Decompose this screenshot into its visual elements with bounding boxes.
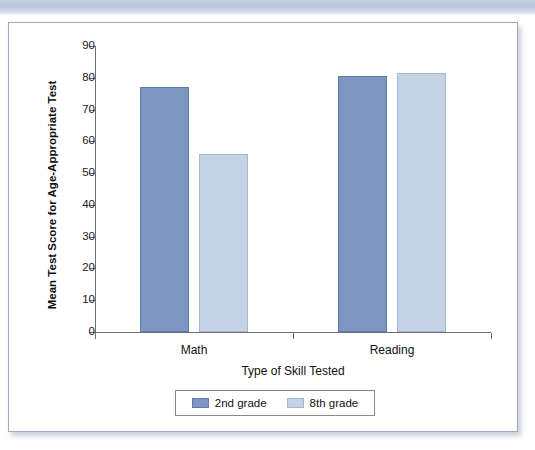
x-axis-title: Type of Skill Tested (95, 364, 491, 378)
y-axis-tick-label: 10 (69, 294, 95, 306)
bar-reading-8th-grade (397, 73, 446, 332)
y-axis-tick-label-wrap: 70 (55, 104, 95, 116)
top-decorative-band (0, 0, 535, 12)
y-axis-tick-label: 50 (69, 167, 95, 179)
x-axis-tick (95, 333, 96, 339)
chart-legend: 2nd grade8th grade (175, 390, 375, 416)
bar-reading-2nd-grade (338, 76, 387, 332)
x-axis-category-label: Math (181, 343, 208, 357)
y-axis-tick-label: 80 (69, 72, 95, 84)
bar-math-8th-grade (199, 154, 248, 332)
x-axis-tick (293, 333, 294, 339)
legend-swatch-icon (287, 398, 304, 408)
figure-card: 0102030405060708090 MathReading Mean Tes… (8, 22, 518, 432)
y-axis-tick-label: 90 (69, 40, 95, 52)
y-axis-tick-label: 0 (69, 326, 95, 338)
y-axis-line (95, 46, 96, 333)
y-axis-tick-label: 60 (69, 135, 95, 147)
top-band-shadow (0, 12, 535, 16)
y-axis-tick-label-wrap: 50 (55, 167, 95, 179)
x-axis-category-label: Reading (370, 343, 415, 357)
legend-label: 2nd grade (215, 397, 267, 409)
x-axis-tick (491, 333, 492, 339)
y-axis-title: Mean Test Score for Age-Appropriate Test (46, 55, 58, 335)
y-axis-tick-label-wrap: 60 (55, 135, 95, 147)
y-axis-tick-label-wrap: 0 (55, 326, 95, 338)
y-axis-tick-label-wrap: 10 (55, 294, 95, 306)
y-axis-tick-label: 30 (69, 231, 95, 243)
y-axis-tick-label-wrap: 30 (55, 231, 95, 243)
legend-entry-8th-grade: 8th grade (287, 397, 359, 409)
bar-chart: 0102030405060708090 MathReading Mean Tes… (9, 23, 519, 433)
y-axis-tick-label-wrap: 80 (55, 72, 95, 84)
y-axis-tick-label-wrap: 20 (55, 262, 95, 274)
legend-entry-2nd-grade: 2nd grade (192, 397, 267, 409)
legend-label: 8th grade (310, 397, 359, 409)
legend-swatch-icon (192, 398, 209, 408)
y-axis-tick-label: 70 (69, 104, 95, 116)
bar-math-2nd-grade (140, 87, 189, 332)
y-axis-tick-label-wrap: 40 (55, 199, 95, 211)
y-axis-tick-label: 40 (69, 199, 95, 211)
y-axis-tick-label-wrap: 90 (55, 40, 95, 52)
y-axis-tick-label: 20 (69, 262, 95, 274)
